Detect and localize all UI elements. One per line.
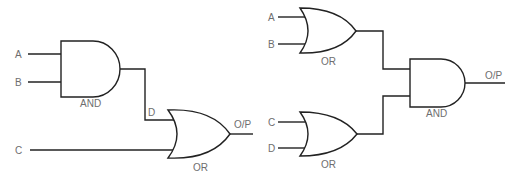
and-gate-label: AND — [80, 98, 101, 109]
input-a-label: A — [15, 49, 22, 60]
or-gate-top — [300, 8, 356, 53]
or-gate — [168, 110, 230, 158]
or-gate-bottom — [300, 112, 357, 156]
circuit-2: A B OR C D OR AND O/P — [268, 8, 505, 170]
or-gate-top-label: OR — [321, 56, 336, 67]
input-b-label: B — [268, 39, 275, 50]
circuit-1: A B C AND D OR O/P — [15, 41, 253, 173]
input-a-label: A — [268, 12, 275, 23]
input-c-label: C — [268, 117, 275, 128]
wire-or-bottom-to-and — [357, 96, 410, 134]
output-label: O/P — [234, 119, 252, 130]
input-d-label: D — [268, 143, 275, 154]
intermediate-d-label: D — [148, 107, 155, 118]
input-c-label: C — [15, 145, 22, 156]
wire-or-top-to-and — [356, 31, 410, 69]
and-gate-label: AND — [426, 108, 447, 119]
and-gate — [410, 59, 465, 107]
or-gate-bottom-label: OR — [321, 159, 336, 170]
output-label: O/P — [485, 70, 503, 81]
or-gate-label: OR — [193, 162, 208, 173]
input-b-label: B — [15, 77, 22, 88]
and-gate — [61, 41, 120, 97]
logic-diagrams: A B C AND D OR O/P A B OR C D — [0, 0, 516, 177]
